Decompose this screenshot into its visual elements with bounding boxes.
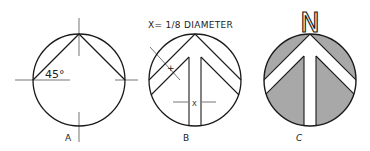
figure-label-a: A	[65, 133, 72, 143]
angle-label: 45°	[45, 68, 65, 81]
figure-b	[149, 34, 241, 126]
circle-b	[149, 34, 241, 126]
figure-c	[250, 34, 370, 136]
figure-label-c: C	[296, 133, 303, 143]
figure-a	[15, 18, 138, 142]
north-letter: N	[300, 8, 319, 38]
note-x-eighth-diameter: X= 1/8 DIAMETER	[148, 20, 233, 30]
dimension-label-x: X	[192, 100, 197, 108]
north-arrow-construction-diagram: 45° A + X X= 1/8 DIAMETER B	[0, 0, 370, 151]
band-tick-label: +	[167, 63, 175, 73]
chevron-inner-right	[201, 57, 239, 95]
white-shaft	[304, 56, 316, 136]
figure-label-b: B	[183, 133, 189, 143]
